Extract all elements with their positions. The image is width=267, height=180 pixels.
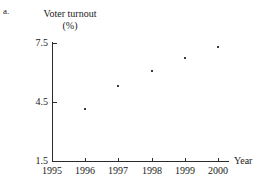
y-axis-tick xyxy=(53,102,57,103)
data-point-marker xyxy=(117,85,119,87)
data-point-marker xyxy=(217,46,219,48)
x-axis-line xyxy=(52,161,229,162)
x-axis-tick-label: 1997 xyxy=(101,165,135,176)
x-axis-tick-label: 1999 xyxy=(168,165,202,176)
x-axis-tick-label: 1995 xyxy=(35,165,69,176)
x-axis-tick xyxy=(85,158,86,162)
x-axis-tick xyxy=(152,158,153,162)
x-axis-tick-label: 1998 xyxy=(135,165,169,176)
data-point-marker xyxy=(84,108,86,110)
x-axis-tick xyxy=(218,158,219,162)
x-axis-tick-label: 1996 xyxy=(68,165,102,176)
x-axis-tick-label: 2000 xyxy=(201,165,235,176)
y-axis-tick-label-wrap: 4.5 xyxy=(22,97,48,107)
y-axis-tick-label: 7.5 xyxy=(24,38,48,48)
plot-area: 1.54.57.5199519961997199819992000 xyxy=(0,0,267,180)
y-axis-tick-label-wrap: 7.5 xyxy=(22,38,48,48)
x-axis-title: Year xyxy=(234,155,252,166)
y-axis-tick xyxy=(53,161,57,162)
y-axis-tick xyxy=(53,43,57,44)
chart-page: Solution a. Voter turnout (%) 1.54.57.51… xyxy=(0,0,267,180)
data-point-marker xyxy=(184,57,186,59)
data-point-marker xyxy=(151,70,153,72)
y-axis-tick-label: 4.5 xyxy=(24,97,48,107)
x-axis-tick xyxy=(52,158,53,162)
x-axis-tick xyxy=(118,158,119,162)
x-axis-tick xyxy=(185,158,186,162)
